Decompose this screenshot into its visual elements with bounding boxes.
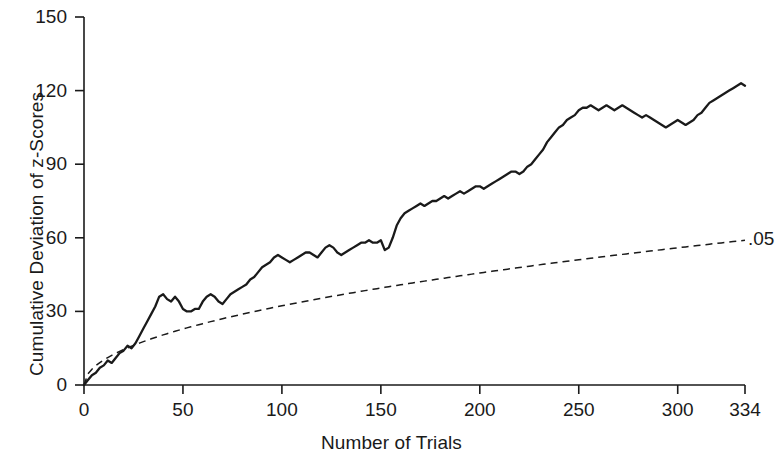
y-axis-ticks	[75, 17, 84, 385]
threshold-annotation-label: .05	[748, 228, 774, 250]
x-axis-tick-label: 100	[266, 399, 298, 421]
y-axis-tick-label: 90	[8, 153, 67, 175]
x-axis-tick-label: 50	[172, 399, 193, 421]
x-axis-title: Number of Trials	[0, 432, 783, 454]
chart-figure: Cumulative Deviation of z-Scores Number …	[0, 0, 783, 465]
x-axis-tick-label: 334	[729, 399, 761, 421]
y-axis-tick-label: 30	[8, 300, 67, 322]
chart-plot-area	[0, 0, 783, 465]
x-axis-tick-label: 0	[79, 399, 90, 421]
x-axis-tick-label: 200	[464, 399, 496, 421]
x-axis-tick-label: 250	[563, 399, 595, 421]
y-axis-tick-label: 150	[8, 6, 67, 28]
significance-threshold-line	[84, 240, 745, 385]
cumulative-deviation-line	[84, 83, 745, 385]
y-axis-tick-label: 120	[8, 80, 67, 102]
y-axis-tick-label: 0	[8, 374, 67, 396]
x-axis-tick-label: 300	[662, 399, 694, 421]
y-axis-tick-label: 60	[8, 227, 67, 249]
x-axis-tick-label: 150	[365, 399, 397, 421]
axis-lines	[84, 17, 745, 385]
x-axis-ticks	[84, 385, 745, 394]
